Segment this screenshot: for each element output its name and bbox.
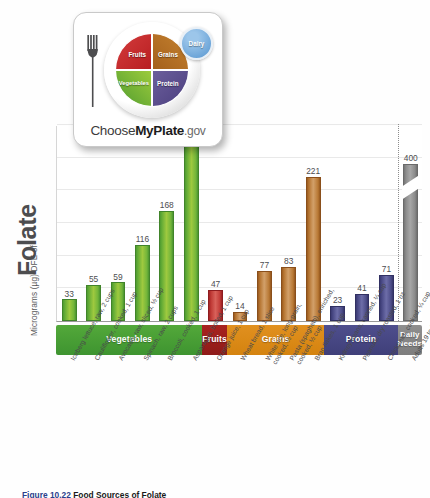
wordmark-bold: MyPlate (135, 123, 184, 138)
plate-segment-dairy-label: Dairy (189, 40, 205, 47)
bar-value-label: 71 (382, 265, 391, 273)
bar-value-label: 221 (306, 167, 320, 175)
bar[interactable] (184, 146, 199, 321)
bar-value-label: 77 (260, 261, 269, 269)
bar-value-label: 59 (113, 273, 122, 281)
bar-group[interactable]: 168 (159, 201, 174, 321)
wordmark-suffix: .gov (184, 124, 205, 138)
caption-label: Figure (22, 490, 48, 498)
bar-group[interactable]: 33 (62, 290, 77, 321)
bar[interactable] (306, 177, 321, 321)
myplate-logo: Fruits Grains Vegetables Protein Dairy C… (73, 12, 223, 147)
bar-value-label: 41 (357, 284, 366, 292)
bar-value-label: 47 (211, 280, 220, 288)
wordmark-prefix: Choose (90, 123, 135, 138)
plate-segment-vegetables-label: Vegetables (119, 80, 149, 86)
bar-value-label: 400 (404, 154, 418, 162)
bar-value-label: 83 (284, 257, 293, 265)
fork-icon (87, 35, 98, 107)
plate-segment-fruits-label: Fruits (129, 51, 147, 58)
plate-segment-protein-label: Protein (157, 80, 179, 87)
bar-value-label: 116 (136, 235, 149, 243)
y-axis-nutrient-label: Folate (13, 204, 42, 276)
x-axis-labels: Iceberg lettuce, raw, 2 cupsCauliflower,… (0, 355, 430, 475)
bar-value-label: 168 (160, 201, 174, 209)
plate-segment-protein: Protein (152, 70, 189, 107)
plate-segment-dairy: Dairy (180, 27, 213, 60)
bar-group[interactable]: 221 (306, 167, 321, 321)
plate-segment-grains-label: Grains (158, 51, 178, 58)
bar-value-label: 33 (65, 290, 74, 298)
plate-segment-fruits: Fruits (115, 33, 152, 70)
bar[interactable] (403, 164, 418, 321)
myplate-wordmark: ChooseMyPlate.gov (74, 123, 222, 138)
bar-group[interactable]: 268 (184, 136, 199, 321)
plate-segment-vegetables: Vegetables (115, 70, 152, 107)
bar[interactable] (62, 299, 77, 321)
figure-caption: Figure 10.22 Food Sources of Folate (22, 490, 166, 498)
caption-number: 10.22 (50, 490, 71, 498)
caption-title: Food Sources of Folate (73, 490, 166, 498)
y-axis-title: Micrograms (µg) DFE of Folate (0, 108, 44, 338)
folate-figure: Micrograms (µg) DFE of Folate 3355591161… (0, 0, 430, 498)
bar-value-label: 55 (89, 275, 98, 283)
